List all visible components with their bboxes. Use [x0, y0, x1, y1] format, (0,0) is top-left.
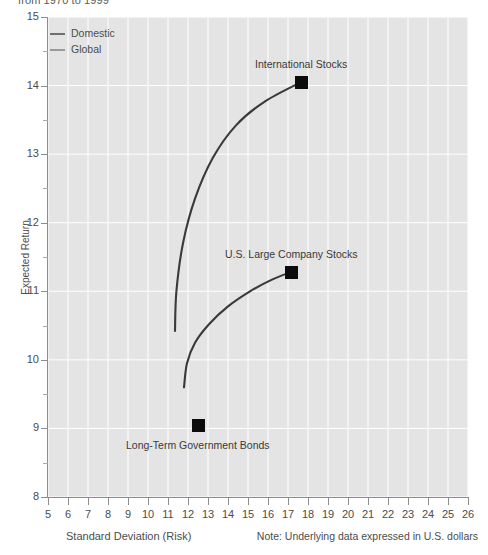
x-tick: [408, 498, 409, 505]
curve-domestic: [184, 272, 291, 387]
y-tick-label: 15: [0, 11, 39, 22]
y-tick-minor: [43, 326, 48, 327]
x-tick: [468, 498, 469, 505]
y-tick: [41, 154, 48, 155]
x-tick: [128, 498, 129, 505]
x-tick: [268, 498, 269, 505]
x-tick-label: 26: [456, 509, 480, 520]
y-tick-minor: [43, 188, 48, 189]
x-tick: [208, 498, 209, 505]
legend-item-global: Global: [50, 43, 115, 56]
x-tick: [88, 498, 89, 505]
data-point-marker[interactable]: [192, 419, 205, 432]
y-axis-title: Expected Return: [20, 208, 31, 308]
chart-legend: Domestic Global: [50, 27, 115, 56]
plot-area: International StocksU.S. Large Company S…: [48, 17, 468, 497]
x-tick: [288, 498, 289, 505]
x-tick: [68, 498, 69, 505]
y-tick-minor: [43, 463, 48, 464]
legend-swatch-global: [50, 49, 65, 51]
y-tick-minor: [43, 257, 48, 258]
y-tick-minor: [43, 120, 48, 121]
legend-label-domestic: Domestic: [71, 28, 115, 39]
x-tick: [348, 498, 349, 505]
legend-item-domestic: Domestic: [50, 27, 115, 40]
chart-footnote: Note: Underlying data expressed in U.S. …: [257, 530, 478, 542]
risk-return-scatter-chart: International StocksU.S. Large Company S…: [0, 0, 488, 555]
x-tick: [328, 498, 329, 505]
legend-swatch-domestic: [50, 33, 65, 35]
data-point-label: U.S. Large Company Stocks: [225, 249, 357, 260]
y-tick: [41, 291, 48, 292]
data-point-label: Long-Term Government Bonds: [126, 440, 270, 451]
x-tick: [308, 498, 309, 505]
x-tick: [428, 498, 429, 505]
x-tick: [108, 498, 109, 505]
x-axis-title: Standard Deviation (Risk): [66, 530, 191, 542]
y-tick: [41, 497, 48, 498]
y-tick: [41, 360, 48, 361]
x-tick: [148, 498, 149, 505]
data-point-marker[interactable]: [285, 266, 298, 279]
y-tick: [41, 17, 48, 18]
y-tick: [41, 428, 48, 429]
y-tick-label: 14: [0, 80, 39, 91]
data-point-label: International Stocks: [255, 59, 347, 70]
x-tick: [168, 498, 169, 505]
x-tick: [228, 498, 229, 505]
x-tick: [448, 498, 449, 505]
y-tick-minor: [43, 51, 48, 52]
x-tick: [248, 498, 249, 505]
legend-label-global: Global: [71, 44, 101, 55]
x-tick: [188, 498, 189, 505]
x-tick: [368, 498, 369, 505]
x-axis-line: [48, 497, 469, 498]
curve-global: [175, 82, 301, 331]
x-tick: [388, 498, 389, 505]
y-tick-label: 9: [0, 422, 39, 433]
x-tick: [48, 498, 49, 505]
y-tick-minor: [43, 394, 48, 395]
y-tick-label: 8: [0, 491, 39, 502]
y-tick: [41, 223, 48, 224]
y-tick-label: 13: [0, 148, 39, 159]
data-point-marker[interactable]: [295, 76, 308, 89]
y-tick: [41, 86, 48, 87]
y-tick-label: 10: [0, 354, 39, 365]
